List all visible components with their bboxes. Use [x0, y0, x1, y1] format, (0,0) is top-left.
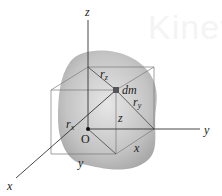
diagram-canvas: Kinetics: [0, 0, 222, 196]
rx-label: rx: [66, 118, 74, 132]
x-axis-label: x: [7, 180, 12, 192]
diagram-svg: [0, 0, 222, 196]
z-coordinate-label: z: [118, 112, 123, 124]
rz-label: rz: [100, 68, 108, 82]
origin-label: O: [81, 133, 90, 145]
z-axis-label: z: [85, 6, 90, 18]
mass-element-dm: [113, 87, 119, 93]
y-coordinate-label: y: [78, 157, 83, 169]
ry-label: ry: [133, 96, 141, 110]
x-coordinate-label: x: [134, 142, 139, 154]
y-axis-label: y: [204, 124, 209, 136]
origin-point: [86, 127, 90, 131]
